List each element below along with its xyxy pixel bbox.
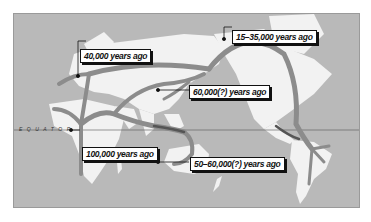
label-60000-years: 60,000(?) years ago (189, 85, 270, 99)
label-100000-years: 100,000 years ago (82, 147, 158, 161)
label-50-60000-years: 50–60,000(?) years ago (190, 157, 285, 171)
world-map: EQUATOR 40,000 years ago 15–35,000 years… (13, 13, 360, 208)
label-15-35000-years: 15–35,000 years ago (232, 30, 317, 44)
equator-label: EQUATOR (19, 126, 75, 132)
label-40000-years: 40,000 years ago (80, 49, 151, 63)
